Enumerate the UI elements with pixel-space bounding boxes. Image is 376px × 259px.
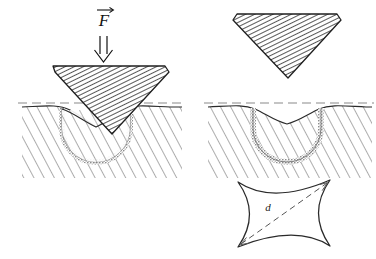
force-vector-label: F — [97, 7, 113, 30]
force-label-text: F — [98, 11, 110, 30]
specimen-block-right — [204, 100, 376, 182]
plan-view-impression: d — [238, 180, 330, 247]
force-direction-arrow-icon — [95, 36, 113, 62]
pyramid-indenter-retracted — [233, 14, 341, 78]
diagonal-label: d — [265, 201, 271, 213]
indentation-hardness-figure: F — [0, 0, 376, 259]
